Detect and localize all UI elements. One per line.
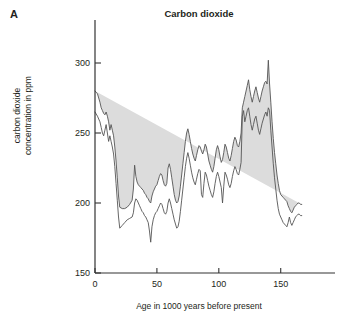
chart-plot-area: 150200250300050100150 (0, 0, 342, 323)
x-tick-label-0: 0 (92, 279, 97, 289)
y-tick-label-200: 200 (75, 198, 90, 208)
x-axis-title: Age in 1000 years before present (95, 301, 303, 311)
y-tick-label-250: 250 (75, 128, 90, 138)
y-axis-title-line2: concentration in ppm (22, 56, 33, 176)
chart-title: Carbon dioxide (95, 8, 303, 19)
x-tick-label-150: 150 (273, 279, 288, 289)
co2-band-series (95, 60, 302, 242)
x-tick-label-100: 100 (211, 279, 226, 289)
y-axis-title: carbon dioxide concentration in ppm (12, 56, 33, 176)
figure-panel: A Carbon dioxide carbon dioxide concentr… (0, 0, 342, 323)
x-tick-label-50: 50 (152, 279, 162, 289)
y-tick-label-150: 150 (75, 268, 90, 278)
y-axis-title-line1: carbon dioxide (12, 56, 23, 176)
co2-band-fill (95, 60, 302, 213)
y-tick-label-300: 300 (75, 58, 90, 68)
panel-label: A (10, 8, 18, 20)
